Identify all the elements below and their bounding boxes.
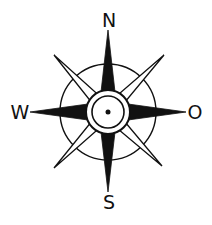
north-point	[101, 30, 115, 92]
center-dot	[106, 110, 111, 115]
label-north: N	[102, 9, 116, 31]
south-point	[101, 132, 115, 192]
label-east: O	[188, 101, 203, 123]
compass-rose: N S W O	[0, 0, 212, 225]
label-west: W	[11, 101, 30, 123]
label-south: S	[103, 191, 115, 213]
east-point	[128, 104, 186, 120]
west-point	[30, 104, 88, 120]
center-hub	[86, 90, 130, 134]
